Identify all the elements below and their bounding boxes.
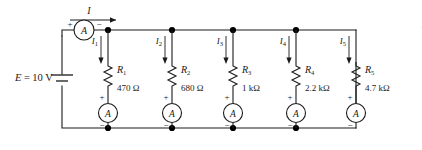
branch-4-ammeter-minus: − <box>287 120 292 130</box>
branch-2-current-label: I2 <box>155 36 162 47</box>
branch-3-ammeter-plus: + <box>224 92 229 102</box>
branch-2: I2 R2 680 Ω + A − <box>155 27 204 131</box>
branch-1-current-label: I1 <box>91 36 98 47</box>
source-symbol: E <box>14 72 22 83</box>
wire-left-top <box>62 30 74 36</box>
branch-4: I4 R4 2.2 kΩ + A − <box>279 27 330 131</box>
branch-1-arrowhead <box>98 58 103 65</box>
resistor-1-value: 470 Ω <box>117 83 140 93</box>
resistor-2-symbol <box>168 62 176 92</box>
branch-2-arrowhead <box>162 58 167 65</box>
branch-4-current-indicator: I4 <box>279 36 292 64</box>
branch-1-current-indicator: I1 <box>91 36 104 64</box>
resistor-5-label: R5 <box>364 64 374 76</box>
branch-4-ammeter-glyph: A <box>292 109 299 119</box>
branch-3-arrowhead <box>223 58 228 65</box>
resistor-2-value: 680 Ω <box>181 83 204 93</box>
branch-5-ammeter-plus: + <box>347 92 352 102</box>
source-label: E=10 V <box>14 72 53 83</box>
branch-5-ammeter-minus: − <box>347 120 352 130</box>
resistor-4-value: 2.2 kΩ <box>305 83 330 93</box>
branch-3-current-indicator: I3 <box>216 36 229 64</box>
branch-1-ammeter-minus: − <box>99 120 104 130</box>
branch-5-current-indicator: I5 <box>339 36 352 64</box>
branch-3-current-label: I3 <box>216 36 223 47</box>
branch-2-current-indicator: I2 <box>155 36 168 64</box>
branch-4-arrowhead <box>286 58 291 65</box>
circuit-schematic: E=10 V I A + − I1 <box>0 0 422 150</box>
branch-5-arrowhead <box>346 58 351 65</box>
resistor-3-symbol <box>229 62 237 92</box>
resistor-3-value: 1 kΩ <box>242 83 260 93</box>
resistor-5-value: 4.7 kΩ <box>365 83 390 93</box>
branch-2-ammeter-glyph: A <box>168 109 175 119</box>
branch-1-ammeter-plus: + <box>99 92 104 102</box>
main-ammeter-minus: − <box>96 19 101 29</box>
resistor-1-symbol <box>104 62 112 92</box>
total-current-label: I <box>86 5 91 16</box>
branch-2-ammeter-plus: + <box>163 92 168 102</box>
branch-1-ammeter-glyph: A <box>104 109 111 119</box>
source-equals: = <box>24 72 30 83</box>
branch-3-ammeter-minus: − <box>224 120 229 130</box>
branch-4-ammeter-plus: + <box>287 92 292 102</box>
branch-3: I3 R3 1 kΩ + A − <box>216 27 261 131</box>
resistor-3-label: R3 <box>241 64 251 76</box>
branch-3-ammeter-glyph: A <box>229 109 236 119</box>
branch-1: I1 R1 470 Ω + A − <box>91 27 140 131</box>
main-ammeter-plus: + <box>67 19 72 29</box>
battery-symbol <box>51 75 73 81</box>
total-current-arrowhead <box>110 17 116 23</box>
branch-4-current-label: I4 <box>279 36 287 47</box>
resistor-1-label: R1 <box>116 64 126 76</box>
resistor-4-symbol <box>292 62 300 92</box>
total-current-indicator: I <box>70 5 116 23</box>
branch-5-ammeter-glyph: A <box>352 109 359 119</box>
circuit-diagram-figure: E=10 V I A + − I1 <box>0 0 422 150</box>
branch-2-ammeter-minus: − <box>163 120 168 130</box>
resistor-4-label: R4 <box>304 64 315 76</box>
source-value: 10 V <box>32 72 53 83</box>
main-ammeter-glyph: A <box>80 25 88 36</box>
branch-5-current-label: I5 <box>339 36 346 47</box>
resistor-2-label: R2 <box>180 64 190 76</box>
branch-5: I5 R5 4.7 kΩ + A − <box>339 36 390 130</box>
